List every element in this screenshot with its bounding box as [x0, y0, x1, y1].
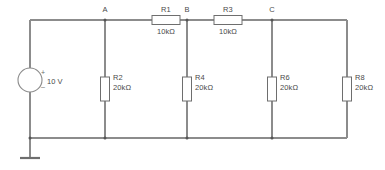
resistor-r6-body	[268, 77, 277, 101]
junction-dot-b-top	[186, 19, 189, 22]
voltage-source-circle	[18, 68, 42, 92]
voltage-source-minus-sign: _	[40, 80, 45, 88]
circuit-canvas: + _ 10 V R1 10kΩ R3 10kΩ R2 20kΩ	[0, 0, 385, 170]
voltage-source-plus-sign: +	[41, 69, 45, 76]
resistor-r2[interactable]: R2 20kΩ	[101, 73, 132, 101]
junction-dot-a-bottom	[104, 137, 107, 140]
resistor-r1-value-label: 10kΩ	[157, 27, 175, 36]
resistor-r3-value-label: 10kΩ	[219, 27, 237, 36]
node-label-a: A	[102, 5, 107, 14]
resistor-r3-ref-label: R3	[223, 5, 233, 14]
node-junctions	[29, 19, 274, 140]
voltage-source[interactable]: + _ 10 V	[18, 68, 62, 92]
resistor-r3[interactable]: R3 10kΩ	[214, 5, 242, 36]
circuit-diagram: + _ 10 V R1 10kΩ R3 10kΩ R2 20kΩ	[0, 0, 385, 170]
resistor-r1[interactable]: R1 10kΩ	[152, 5, 180, 36]
resistor-r4[interactable]: R4 20kΩ	[183, 73, 214, 101]
junction-dot-a-top	[104, 19, 107, 22]
resistor-r1-body	[152, 16, 180, 25]
resistor-r2-value-label: 20kΩ	[113, 83, 131, 92]
resistor-r4-body	[183, 77, 192, 101]
node-label-c: C	[269, 5, 275, 14]
node-label-b: B	[184, 5, 189, 14]
resistor-r4-ref-label: R4	[195, 73, 205, 82]
junction-dot-c-top	[271, 19, 274, 22]
node-labels: A B C	[102, 5, 275, 14]
resistor-r2-body	[101, 77, 110, 101]
resistor-r4-value-label: 20kΩ	[195, 83, 213, 92]
resistor-r2-ref-label: R2	[113, 73, 123, 82]
junction-dot-ground	[29, 137, 32, 140]
resistor-r3-body	[214, 16, 242, 25]
resistor-r8[interactable]: R8 20kΩ	[343, 73, 374, 101]
resistor-r6[interactable]: R6 20kΩ	[268, 73, 299, 101]
resistor-r8-ref-label: R8	[355, 73, 365, 82]
voltage-source-value-label: 10 V	[47, 77, 62, 86]
resistor-r6-ref-label: R6	[280, 73, 290, 82]
resistor-r6-value-label: 20kΩ	[280, 83, 298, 92]
resistor-r8-value-label: 20kΩ	[355, 83, 373, 92]
junction-dot-c-bottom	[271, 137, 274, 140]
resistor-r1-ref-label: R1	[161, 5, 171, 14]
resistor-r8-body	[343, 77, 352, 101]
junction-dot-b-bottom	[186, 137, 189, 140]
